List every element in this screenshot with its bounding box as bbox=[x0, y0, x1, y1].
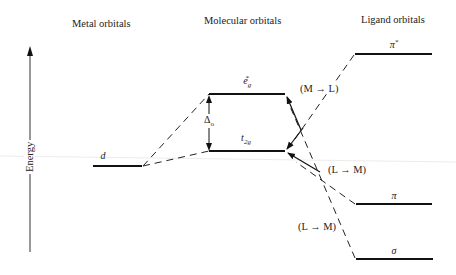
label-d: d bbox=[101, 150, 106, 161]
arrow-m-to-l bbox=[287, 97, 301, 130]
label-pi: π bbox=[391, 190, 396, 201]
mo-diagram-canvas bbox=[0, 0, 456, 275]
label-eg-star: eg* bbox=[243, 74, 248, 89]
label-sigma: σ bbox=[392, 245, 397, 256]
label-t2g: t2g bbox=[241, 132, 251, 146]
arrow-pi-star-to-t2g bbox=[287, 128, 303, 149]
annotation-l-to-m-pi: (L → M) bbox=[328, 164, 366, 175]
arrow-l-to-m bbox=[288, 153, 320, 172]
scan-artifact bbox=[0, 156, 456, 162]
axis-arrowhead-icon bbox=[27, 46, 33, 56]
annotation-m-to-l: (M → L) bbox=[300, 83, 339, 94]
header-ligand-orbitals: Ligand orbitals bbox=[361, 14, 425, 25]
energy-axis-label: Energy bbox=[24, 140, 35, 174]
transition-arrows bbox=[287, 97, 320, 172]
header-metal-orbitals: Metal orbitals bbox=[72, 18, 131, 29]
label-delta-o: Δo bbox=[204, 114, 214, 128]
header-molecular-orbitals: Molecular orbitals bbox=[204, 15, 281, 26]
annotation-l-to-m-sigma: (L → M) bbox=[298, 221, 336, 232]
label-pi-star: π* bbox=[390, 38, 399, 50]
